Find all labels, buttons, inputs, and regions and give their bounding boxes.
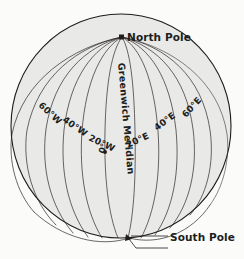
diagram-canvas: North Pole Greenwich Meridian 0° 60°W 40… xyxy=(0,0,244,259)
south-pole-label: South Pole xyxy=(170,231,235,243)
globe-diagram: North Pole Greenwich Meridian 0° 60°W 40… xyxy=(0,0,244,259)
north-pole-label: North Pole xyxy=(127,31,191,43)
north-pole-marker-icon xyxy=(119,35,124,40)
